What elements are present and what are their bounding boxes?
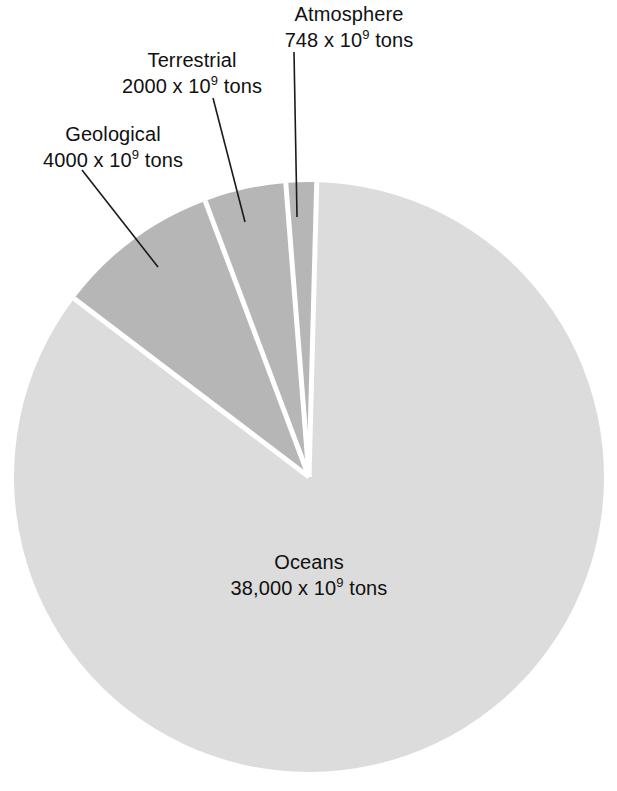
slice-label-terrestrial: Terrestrial 2000 x 109 tons <box>92 48 292 99</box>
exponent-atmosphere: 9 <box>362 27 369 42</box>
pie-chart-figure: Geological 4000 x 109 tons Terrestrial 2… <box>0 0 617 791</box>
pie-chart-svg <box>0 0 617 791</box>
slice-label-atmosphere: Atmosphere 748 x 109 tons <box>244 2 454 53</box>
slice-label-oceans-name: Oceans <box>199 550 419 576</box>
slice-label-geological-value: 4000 x 109 tons <box>8 148 218 174</box>
slice-label-oceans: Oceans 38,000 x 109 tons <box>199 550 419 601</box>
slice-label-atmosphere-value: 748 x 109 tons <box>244 28 454 54</box>
slice-label-terrestrial-value: 2000 x 109 tons <box>92 74 292 100</box>
slice-label-atmosphere-name: Atmosphere <box>244 2 454 28</box>
slice-label-oceans-value: 38,000 x 109 tons <box>199 576 419 602</box>
slice-label-geological: Geological 4000 x 109 tons <box>8 122 218 173</box>
slice-label-geological-name: Geological <box>8 122 218 148</box>
exponent-oceans: 9 <box>336 575 343 590</box>
